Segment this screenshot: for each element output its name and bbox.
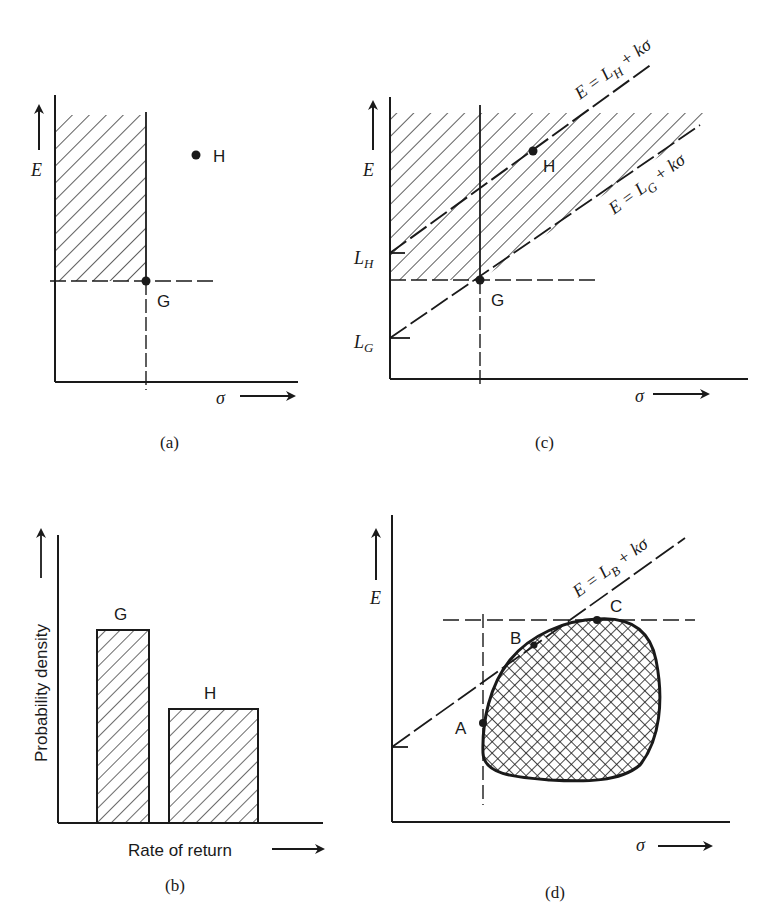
bar-h-label: H: [204, 684, 216, 703]
y-axis-label: E: [369, 588, 381, 608]
panel-c: G H LH LG E σ E = LH + kσ E = LG + kσ (c…: [353, 34, 748, 452]
panel-caption: (b): [165, 876, 185, 895]
intercept-lg-label: LG: [353, 332, 374, 355]
figure-canvas: G H E σ (a) G H LH LG E σ E = LH + kσ E …: [0, 0, 771, 919]
point-b: [531, 642, 538, 649]
point-h: [529, 147, 538, 156]
y-axis-label: E: [30, 160, 42, 180]
point-h-label: H: [543, 157, 555, 176]
x-axis-label: σ: [636, 835, 646, 855]
bar-h: [169, 709, 258, 823]
svg-text:Probability density: Probability density: [32, 624, 51, 762]
bar-g: [97, 630, 149, 823]
point-g: [142, 277, 151, 286]
y-axis-label: Probability density: [32, 624, 51, 762]
panel-a: G H E σ (a): [30, 95, 298, 452]
panel-caption: (a): [160, 433, 179, 452]
point-h-label: H: [213, 147, 225, 166]
panel-caption: (d): [545, 883, 565, 902]
point-a-label: A: [455, 719, 467, 738]
dominance-region: [390, 113, 705, 280]
dominance-region: [55, 115, 146, 281]
x-axis-label: Rate of return: [128, 841, 232, 860]
bar-g-label: G: [114, 605, 127, 624]
x-axis-label: σ: [216, 388, 226, 408]
point-c: [593, 616, 601, 624]
point-a: [479, 719, 487, 727]
point-b-label: B: [510, 629, 521, 648]
point-c-label: C: [610, 597, 622, 616]
point-h: [192, 151, 201, 160]
point-g: [476, 276, 485, 285]
y-axis-label: E: [362, 160, 374, 180]
point-g-label: G: [491, 291, 504, 310]
intercept-lh-label: LH: [353, 248, 374, 271]
panel-d: A B C E σ E = LB + kσ (d): [369, 515, 730, 902]
point-g-label: G: [157, 292, 170, 311]
panel-b: G H Probability density Rate of return (…: [32, 530, 323, 895]
panel-caption: (c): [535, 433, 554, 452]
x-axis-label: σ: [635, 386, 645, 406]
